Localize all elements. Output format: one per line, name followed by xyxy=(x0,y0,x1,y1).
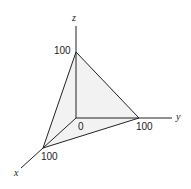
plane-triangle xyxy=(43,52,139,148)
diagram-canvas xyxy=(0,0,191,189)
y-intercept-label: 100 xyxy=(136,122,153,132)
y-axis-label: y xyxy=(176,112,180,122)
x-axis-label: x xyxy=(14,168,18,178)
z-axis-label: z xyxy=(72,13,76,23)
x-intercept-label: 100 xyxy=(41,152,58,162)
z-intercept-label: 100 xyxy=(54,46,71,56)
origin-label: 0 xyxy=(78,122,84,132)
